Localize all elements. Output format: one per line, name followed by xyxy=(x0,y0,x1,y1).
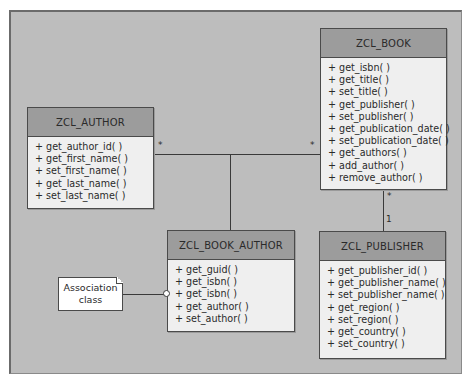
association-line-author-book xyxy=(153,154,320,155)
method-list: + get_publisher_id( ) + get_publisher_na… xyxy=(320,261,445,350)
method: + get_authors( ) xyxy=(328,147,446,159)
method: + get_isbn( ) xyxy=(328,62,446,74)
class-name: ZCL_AUTHOR xyxy=(28,108,153,137)
method: + get_title( ) xyxy=(328,74,446,86)
method: + get_isbn( ) xyxy=(175,288,294,300)
class-zcl-author[interactable]: ZCL_AUTHOR + get_author_id( ) + get_firs… xyxy=(27,107,154,209)
method: + set_first_name( ) xyxy=(35,165,153,177)
method: + get_guid( ) xyxy=(175,264,294,276)
method: + get_publisher_id( ) xyxy=(327,265,445,277)
method: + get_country( ) xyxy=(327,326,445,338)
class-zcl-book[interactable]: ZCL_BOOK + get_isbn( ) + get_title( ) + … xyxy=(320,28,447,190)
note-text-line2: class xyxy=(59,294,122,306)
class-zcl-publisher[interactable]: ZCL_PUBLISHER + get_publisher_id( ) + ge… xyxy=(319,231,446,359)
method: + get_author( ) xyxy=(175,301,294,313)
method: + get_author_id( ) xyxy=(35,141,153,153)
multiplicity-author-end: * xyxy=(158,140,163,150)
method: + get_first_name( ) xyxy=(35,153,153,165)
method: + set_region( ) xyxy=(327,314,445,326)
method: + set_publisher( ) xyxy=(328,111,446,123)
method: + set_publisher_name( ) xyxy=(327,289,445,301)
method: + get_region( ) xyxy=(327,302,445,314)
multiplicity-book-publisher-book-end: * xyxy=(387,191,392,201)
association-class-note[interactable]: Association class xyxy=(58,277,123,311)
method: + get_last_name( ) xyxy=(35,178,153,190)
method: + add_author( ) xyxy=(328,160,446,172)
method-list: + get_guid( ) + get_isbn( ) + get_isbn( … xyxy=(168,260,294,325)
multiplicity-book-end: * xyxy=(310,140,315,150)
note-anchor-circle-icon xyxy=(163,290,170,297)
association-class-connector xyxy=(230,154,231,230)
method: + set_publication_date( ) xyxy=(328,135,446,147)
class-name: ZCL_BOOK xyxy=(321,29,446,58)
method: + get_publisher( ) xyxy=(328,99,446,111)
class-zcl-book-author[interactable]: ZCL_BOOK_AUTHOR + get_guid( ) + get_isbn… xyxy=(167,230,295,332)
class-name: ZCL_PUBLISHER xyxy=(320,232,445,261)
method: + set_last_name( ) xyxy=(35,190,153,202)
method: + remove_author( ) xyxy=(328,172,446,184)
method: + get_publication_date( ) xyxy=(328,123,446,135)
note-connector-line xyxy=(123,294,164,295)
method: + set_author( ) xyxy=(175,313,294,325)
note-text-line1: Association xyxy=(59,282,122,294)
method-list: + get_isbn( ) + get_title( ) + set_title… xyxy=(321,58,446,184)
method: + get_isbn( ) xyxy=(175,276,294,288)
method: + get_publisher_name( ) xyxy=(327,277,445,289)
note-fold-corner-icon xyxy=(116,277,123,284)
method: + set_title( ) xyxy=(328,86,446,98)
multiplicity-publisher-end: 1 xyxy=(386,214,392,224)
class-name: ZCL_BOOK_AUTHOR xyxy=(168,231,294,260)
method-list: + get_author_id( ) + get_first_name( ) +… xyxy=(28,137,153,202)
association-line-book-publisher xyxy=(383,189,384,231)
method: + set_country( ) xyxy=(327,338,445,350)
